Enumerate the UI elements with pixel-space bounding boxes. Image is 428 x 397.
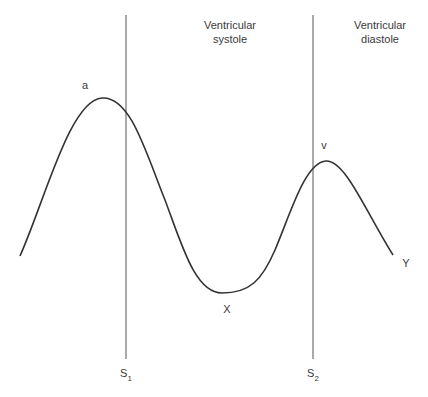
point-label-y: Y <box>400 256 412 270</box>
pressure-curve <box>20 98 393 293</box>
waveform-diagram <box>0 0 428 397</box>
marker-label-s1: S1 <box>114 366 138 382</box>
point-label-a: a <box>79 78 91 92</box>
point-label-v: v <box>318 138 330 152</box>
point-label-x: X <box>221 302 233 316</box>
marker-label-s2: S2 <box>301 366 325 382</box>
phase-label-diastole: Ventricular diastole <box>340 18 420 46</box>
phase-label-systole: Ventricular systole <box>180 18 280 46</box>
